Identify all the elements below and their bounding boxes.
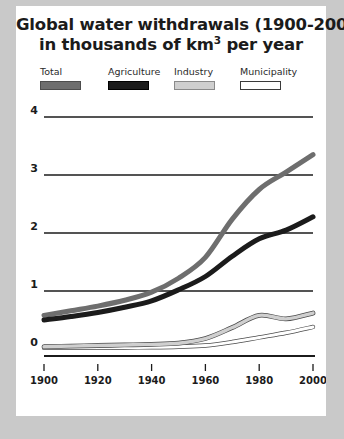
x-axis	[44, 356, 315, 371]
chart-plot-area: 43210 190019201940196019802000	[16, 6, 326, 416]
x-tick-label: 1940	[138, 375, 166, 386]
y-tick-label: 4	[30, 104, 38, 117]
y-axis-labels: 43210	[30, 104, 38, 349]
x-tick-label: 1900	[30, 375, 58, 386]
y-tick-label: 1	[30, 278, 38, 291]
x-tick-label: 1960	[191, 375, 219, 386]
chart-card: Global water withdrawals (1900-2000) in …	[16, 6, 326, 416]
series-line-agriculture[interactable]	[44, 217, 313, 320]
y-tick-label: 3	[30, 162, 38, 175]
figure-background: Global water withdrawals (1900-2000) in …	[0, 0, 344, 439]
data-series-group	[44, 155, 313, 348]
x-tick-label: 2000	[299, 375, 326, 386]
y-tick-label: 0	[30, 336, 38, 349]
chart-svg: 43210 190019201940196019802000	[16, 6, 326, 416]
series-line-industry[interactable]	[44, 313, 313, 347]
x-tick-label: 1920	[84, 375, 112, 386]
y-tick-label: 2	[30, 220, 38, 233]
x-axis-labels: 190019201940196019802000	[30, 375, 326, 386]
x-tick-label: 1980	[245, 375, 273, 386]
